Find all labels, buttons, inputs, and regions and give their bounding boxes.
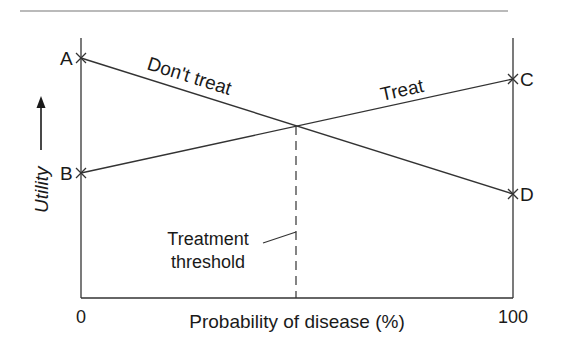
point-d-label: D	[520, 184, 534, 205]
treat-line	[81, 79, 513, 173]
treat-label: Treat	[378, 75, 426, 105]
y-axis-label: Utility	[31, 165, 52, 213]
x-axis-max-label: 100	[498, 307, 528, 327]
threshold-label-line2: threshold	[171, 252, 245, 272]
x-axis-title: Probability of disease (%)	[189, 311, 404, 332]
point-b-label: B	[60, 163, 73, 184]
arrow-up-icon	[37, 96, 46, 150]
point-c-label: C	[520, 69, 534, 90]
x-axis-min-label: 0	[76, 307, 86, 327]
threshold-leader-line	[263, 232, 296, 243]
decision-threshold-diagram: A B C D Don't treat Treat Treatment thre…	[0, 0, 564, 354]
point-a-label: A	[60, 48, 73, 69]
threshold-label-line1: Treatment	[167, 229, 248, 249]
